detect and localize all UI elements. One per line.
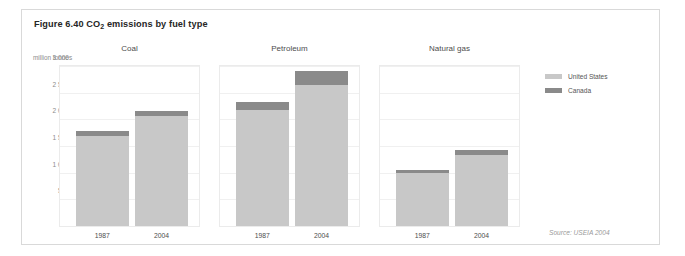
legend-swatch [545, 88, 562, 93]
x-axis-tick-label: 2004 [154, 232, 169, 239]
plot-area [220, 66, 359, 226]
x-axis-tick-label: 1987 [255, 232, 270, 239]
figure-title-subscript: 2 [100, 23, 104, 30]
panel-title: Coal [60, 44, 199, 53]
bar-segment-united-states [455, 155, 508, 226]
chart-panel: Coal19872004 [59, 65, 200, 227]
plot-area [60, 66, 199, 226]
bar-segment-canada [455, 150, 508, 155]
legend-label: Canada [568, 87, 591, 94]
bar-segment-canada [236, 102, 289, 110]
figure-root: Figure 6.40 CO2 emissions by fuel type m… [0, 0, 685, 256]
bar-segment-canada [76, 131, 129, 136]
bar-stack [76, 131, 129, 226]
panel-title: Petroleum [220, 44, 359, 53]
bar-segment-canada [135, 111, 188, 116]
bar-segment-united-states [76, 136, 129, 226]
x-axis-tick-label: 1987 [415, 232, 430, 239]
bar-segment-united-states [135, 116, 188, 226]
plot-area [380, 66, 519, 226]
bar-segment-canada [295, 71, 348, 85]
source-note: Source: USEIA 2004 [549, 229, 610, 236]
figure-title: Figure 6.40 CO2 emissions by fuel type [34, 19, 208, 29]
legend-item: Canada [545, 86, 608, 95]
bar-stack [236, 102, 289, 226]
bar-segment-united-states [236, 110, 289, 226]
bar-stack [135, 111, 188, 226]
legend-label: United States [568, 73, 608, 80]
figure-title-prefix: Figure 6.40 CO [34, 19, 100, 29]
panel-title: Natural gas [380, 44, 519, 53]
figure-title-suffix: emissions by fuel type [104, 19, 207, 29]
figure-frame: Figure 6.40 CO2 emissions by fuel type m… [21, 9, 660, 245]
bar-stack [295, 71, 348, 226]
bar-segment-united-states [295, 85, 348, 226]
bar-stack [455, 150, 508, 226]
bar-stack [396, 170, 449, 226]
x-axis-tick-label: 2004 [314, 232, 329, 239]
legend: United StatesCanada [545, 72, 608, 100]
bar-segment-canada [396, 170, 449, 173]
legend-swatch [545, 74, 562, 79]
chart-panel: Petroleum19872004 [219, 65, 360, 227]
legend-item: United States [545, 72, 608, 81]
y-axis-tick-label: 3 000 [52, 54, 69, 61]
x-axis-tick-label: 2004 [474, 232, 489, 239]
chart-panel: Natural gas19872004 [379, 65, 520, 227]
bar-segment-united-states [396, 173, 449, 226]
x-axis-tick-label: 1987 [95, 232, 110, 239]
